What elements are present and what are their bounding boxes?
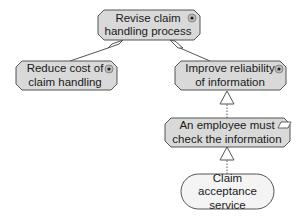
label-line2: check the information [172, 133, 281, 145]
label-revise: Revise claimhandling process [100, 10, 196, 40]
label-line1: An employee must [179, 119, 274, 131]
label-service: Claimacceptance service [181, 175, 274, 209]
aggregation-diamond-shape [170, 40, 183, 48]
edge-service-to-employee[interactable] [220, 147, 234, 174]
label-employee: An employee mustcheck the information [166, 118, 288, 147]
label-line1: Claim [213, 172, 242, 184]
label-line1: Reduce cost of [27, 62, 104, 74]
edge-employee-to-improve[interactable] [220, 91, 234, 118]
label-line1: Improve reliability [185, 62, 274, 74]
edge-reduce-to-revise[interactable] [70, 40, 123, 61]
label-line2: handling process [105, 25, 192, 37]
edge-improve-to-revise[interactable] [170, 40, 210, 61]
label-reduce: Reduce cost ofclaim handling [18, 61, 112, 90]
label-improve: Improve reliabilityof information [180, 61, 280, 90]
realization-arrow-icon [220, 91, 234, 104]
label-line2: of information [195, 76, 265, 88]
realization-arrow-icon [220, 147, 234, 160]
label-line2: claim handling [28, 76, 102, 88]
aggregation-diamond-icon [108, 40, 123, 48]
label-line2: acceptance service [198, 185, 257, 211]
label-line1: Revise claim [115, 12, 180, 24]
